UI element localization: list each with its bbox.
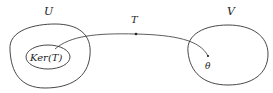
mapping-arrow-t <box>55 34 208 56</box>
arrow-marker-icon <box>135 33 138 36</box>
theta-point-icon <box>207 55 209 57</box>
mapping-t-label: T <box>131 14 139 25</box>
set-v-label: V <box>227 5 236 18</box>
theta-label: θ <box>205 61 211 71</box>
set-v-blob <box>188 25 268 85</box>
diagram-canvas: U V T Ker(T) θ <box>0 0 273 93</box>
kernel-label: Ker(T) <box>29 52 62 63</box>
set-u-label: U <box>44 5 54 18</box>
